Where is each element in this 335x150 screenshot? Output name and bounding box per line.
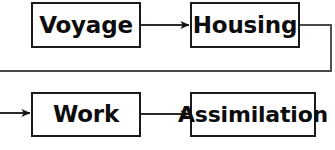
node-assimilation-label: Assimilation (178, 104, 328, 126)
node-assimilation: Assimilation (190, 92, 316, 137)
node-housing: Housing (190, 2, 300, 48)
node-work-label: Work (53, 103, 119, 126)
node-voyage: Voyage (31, 2, 141, 48)
flow-diagram: Voyage Housing Work Assimilation (0, 0, 335, 150)
node-voyage-label: Voyage (39, 14, 133, 37)
node-housing-label: Housing (193, 14, 297, 37)
node-work: Work (31, 92, 141, 137)
